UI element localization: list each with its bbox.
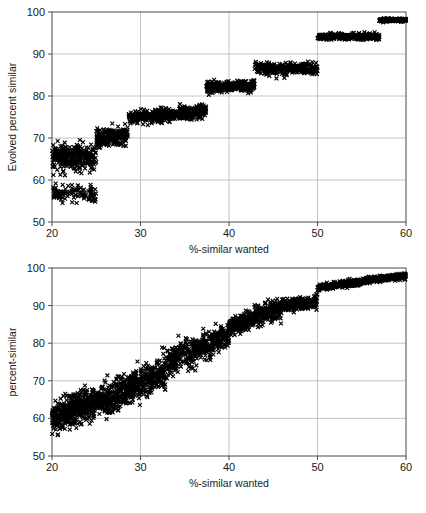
chart-panel-top: 50607080901002030405060%-similar wantedE… <box>0 0 426 256</box>
scatter-plot-top: 50607080901002030405060%-similar wantedE… <box>0 0 426 256</box>
y-axis-title: percent-similar <box>6 327 18 396</box>
scatter-plot-bottom: 50607080901002030405060%-similar wantedp… <box>0 256 426 513</box>
x-axis-title: %-similar wanted <box>189 243 269 255</box>
y-tick-label: 60 <box>33 412 45 424</box>
x-tick-label: 60 <box>400 227 412 239</box>
y-tick-label: 100 <box>27 262 45 274</box>
x-tick-label: 20 <box>46 227 58 239</box>
x-tick-label: 30 <box>134 461 146 473</box>
y-tick-label: 50 <box>33 216 45 228</box>
y-tick-label: 100 <box>27 6 45 18</box>
y-tick-label: 70 <box>33 132 45 144</box>
x-axis-title: %-similar wanted <box>189 477 269 489</box>
x-tick-label: 60 <box>400 461 412 473</box>
x-tick-label: 20 <box>46 461 58 473</box>
x-tick-label: 40 <box>223 461 235 473</box>
y-axis-title: Evolved percent similar <box>6 62 18 171</box>
x-tick-label: 40 <box>223 227 235 239</box>
x-tick-label: 50 <box>311 227 323 239</box>
y-tick-label: 90 <box>33 300 45 312</box>
chart-panel-bottom: 50607080901002030405060%-similar wantedp… <box>0 256 426 513</box>
y-tick-label: 80 <box>33 90 45 102</box>
x-tick-label: 50 <box>311 461 323 473</box>
y-tick-label: 60 <box>33 174 45 186</box>
y-tick-label: 50 <box>33 450 45 462</box>
y-tick-label: 70 <box>33 375 45 387</box>
y-tick-label: 90 <box>33 48 45 60</box>
y-tick-label: 80 <box>33 337 45 349</box>
x-tick-label: 30 <box>134 227 146 239</box>
